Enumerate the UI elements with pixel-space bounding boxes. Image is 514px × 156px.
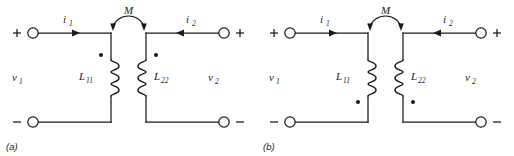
polarity-dot-left-b xyxy=(356,100,360,104)
current-arrow-i1-a xyxy=(72,30,80,37)
label-mutual-M-b: M xyxy=(380,4,391,16)
inductor-coil-L11-a xyxy=(111,60,119,96)
inductor-coil-L22-b xyxy=(395,60,403,96)
mutual-coupling-arc-b xyxy=(370,16,401,28)
terminal-left-top-a[interactable] xyxy=(28,28,38,38)
label-inductor-L11-sub-a: 11 xyxy=(86,76,93,85)
circuit-panel-a: M i 1 i 2 v 1 v 2 L 11 L 22 (a) xyxy=(0,0,257,156)
label-inductor-L11-a: L xyxy=(78,70,85,82)
label-current-i2-b: i xyxy=(443,13,446,25)
terminal-right-top-b[interactable] xyxy=(476,28,486,38)
figure-root: M i 1 i 2 v 1 v 2 L 11 L 22 (a) xyxy=(0,0,514,156)
label-voltage-v2-sub-b: 2 xyxy=(472,77,476,86)
panel-caption-b: (b) xyxy=(263,141,275,152)
terminal-left-bottom-a[interactable] xyxy=(28,117,38,127)
label-current-i2-sub-a: 2 xyxy=(192,19,196,28)
label-inductor-L22-a: L xyxy=(153,70,160,82)
inductor-coil-L11-b xyxy=(368,60,376,96)
label-inductor-L22-b: L xyxy=(410,70,417,82)
mutual-coupling-arc-a xyxy=(113,16,144,28)
label-voltage-v1-sub-a: 1 xyxy=(19,77,23,86)
terminal-left-bottom-b[interactable] xyxy=(285,117,295,127)
label-current-i1-b: i xyxy=(320,13,323,25)
label-inductor-L22-sub-a: 22 xyxy=(161,76,169,85)
panel-caption-a: (a) xyxy=(6,141,18,152)
mutual-arrow-right-a xyxy=(141,23,147,31)
label-voltage-v2-sub-a: 2 xyxy=(215,77,219,86)
polarity-dot-left-a xyxy=(99,53,103,57)
polarity-plus-right-b xyxy=(493,29,501,37)
label-current-i2-sub-b: 2 xyxy=(449,19,453,28)
terminal-left-top-b[interactable] xyxy=(285,28,295,38)
label-inductor-L22-sub-b: 22 xyxy=(418,76,426,85)
mutual-arrow-right-b xyxy=(398,23,404,31)
circuit-panel-b: M i 1 i 2 v 1 v 2 L 11 L 22 (b) xyxy=(257,0,514,156)
terminal-right-bottom-a[interactable] xyxy=(219,117,229,127)
label-current-i1-sub-a: 1 xyxy=(69,19,73,28)
label-current-i1-sub-b: 1 xyxy=(326,19,330,28)
polarity-plus-left-b xyxy=(270,29,278,37)
polarity-dot-right-b xyxy=(411,100,415,104)
label-inductor-L11-b: L xyxy=(335,70,342,82)
circuit-schematic-b: M i 1 i 2 v 1 v 2 L 11 L 22 (b) xyxy=(257,0,514,156)
label-voltage-v1-sub-b: 1 xyxy=(276,77,280,86)
circuit-schematic-a: M i 1 i 2 v 1 v 2 L 11 L 22 (a) xyxy=(0,0,257,156)
current-arrow-i1-b xyxy=(329,30,337,37)
current-arrow-i2-a xyxy=(176,30,184,37)
label-voltage-v2-b: v xyxy=(465,71,470,83)
label-inductor-L11-sub-b: 11 xyxy=(343,76,350,85)
terminal-right-top-a[interactable] xyxy=(219,28,229,38)
mutual-arrow-left-a xyxy=(110,23,116,31)
label-voltage-v2-a: v xyxy=(208,71,213,83)
terminal-right-bottom-b[interactable] xyxy=(476,117,486,127)
label-current-i2-a: i xyxy=(186,13,189,25)
mutual-arrow-left-b xyxy=(367,23,373,31)
label-mutual-M-a: M xyxy=(123,4,134,16)
polarity-dot-right-a xyxy=(154,53,158,57)
label-current-i1-a: i xyxy=(63,13,66,25)
label-voltage-v1-a: v xyxy=(12,71,17,83)
label-voltage-v1-b: v xyxy=(269,71,274,83)
polarity-plus-left-a xyxy=(13,29,21,37)
current-arrow-i2-b xyxy=(433,30,441,37)
inductor-coil-L22-a xyxy=(138,60,146,96)
polarity-plus-right-a xyxy=(236,29,244,37)
